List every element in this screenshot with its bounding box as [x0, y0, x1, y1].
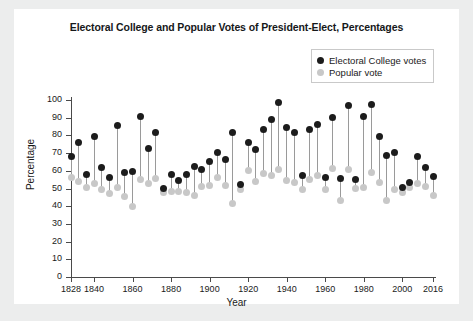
x-axis-tick-label: 1980 — [344, 284, 384, 294]
x-axis-tick — [433, 278, 434, 282]
data-point-electoral-college — [68, 153, 75, 160]
data-point-electoral-college — [383, 152, 390, 159]
data-point-electoral-college — [229, 129, 236, 136]
x-axis-tick — [325, 278, 326, 282]
data-point-electoral-college — [183, 171, 190, 178]
x-axis-tick-label: 2016 — [413, 284, 453, 294]
y-axis-tick-label: 70 — [32, 147, 62, 157]
data-point-popular-vote — [137, 176, 144, 183]
x-axis-tick — [133, 278, 134, 282]
data-point-electoral-college — [206, 158, 213, 165]
legend-label-popular-vote: Popular vote — [329, 67, 382, 78]
data-stem — [155, 132, 156, 179]
data-point-electoral-college — [337, 175, 344, 182]
data-point-electoral-college — [268, 116, 275, 123]
data-point-electoral-college — [322, 174, 329, 181]
legend-item-popular-vote: Popular vote — [317, 66, 426, 78]
data-point-electoral-college — [91, 133, 98, 140]
data-stem — [232, 132, 233, 203]
data-point-popular-vote — [414, 180, 421, 187]
x-axis-tick-label: 1920 — [228, 284, 268, 294]
data-point-electoral-college — [430, 173, 437, 180]
data-point-electoral-college — [160, 185, 167, 192]
x-axis-tick-label: 1940 — [267, 284, 307, 294]
y-axis-tick-label: 100 — [32, 94, 62, 104]
data-stem — [94, 136, 95, 183]
y-axis-tick-label: 40 — [32, 200, 62, 210]
x-axis-tick — [171, 278, 172, 282]
data-stem — [379, 137, 380, 183]
data-stem — [332, 117, 333, 169]
data-point-popular-vote — [337, 197, 344, 204]
data-stem — [348, 106, 349, 170]
data-stem — [148, 148, 149, 184]
x-axis-line — [68, 277, 436, 278]
data-point-popular-vote — [345, 166, 352, 173]
data-point-popular-vote — [175, 188, 182, 195]
data-point-electoral-college — [260, 126, 267, 133]
data-point-electoral-college — [222, 156, 229, 163]
x-axis-tick — [248, 278, 249, 282]
data-stem — [117, 125, 118, 187]
y-axis-tick-label: 90 — [32, 112, 62, 122]
data-point-electoral-college — [106, 174, 113, 181]
x-axis-tick — [210, 278, 211, 282]
data-point-popular-vote — [268, 172, 275, 179]
data-point-electoral-college — [168, 171, 175, 178]
data-point-electoral-college — [145, 145, 152, 152]
data-point-electoral-college — [114, 122, 121, 129]
y-axis-tick-label: 20 — [32, 236, 62, 246]
data-point-popular-vote — [91, 180, 98, 187]
data-point-electoral-college — [368, 101, 375, 108]
data-stem — [255, 150, 256, 182]
legend-item-electoral-college: Electoral College votes — [317, 54, 426, 66]
data-point-popular-vote — [106, 190, 113, 197]
data-point-popular-vote — [306, 176, 313, 183]
data-point-electoral-college — [391, 149, 398, 156]
data-point-popular-vote — [360, 184, 367, 191]
data-point-popular-vote — [168, 188, 175, 195]
y-axis-tick-label: 30 — [32, 218, 62, 228]
data-point-popular-vote — [422, 183, 429, 190]
data-point-popular-vote — [299, 186, 306, 193]
x-axis-tick — [402, 278, 403, 282]
data-point-electoral-college — [314, 121, 321, 128]
x-axis-tick-label: 1900 — [190, 284, 230, 294]
data-point-popular-vote — [114, 184, 121, 191]
data-point-electoral-college — [376, 133, 383, 140]
data-stem — [132, 172, 133, 207]
data-stem — [394, 152, 395, 190]
data-point-electoral-college — [214, 149, 221, 156]
data-stem — [386, 155, 387, 201]
data-stem — [363, 116, 364, 187]
x-axis-tick — [287, 278, 288, 282]
data-point-popular-vote — [376, 179, 383, 186]
data-point-popular-vote — [214, 174, 221, 181]
x-axis-tick — [94, 278, 95, 282]
data-point-popular-vote — [430, 192, 437, 199]
legend-marker-electoral-college-icon — [317, 57, 324, 64]
data-point-popular-vote — [283, 177, 290, 184]
data-stem — [309, 130, 310, 180]
legend-label-electoral-college: Electoral College votes — [329, 55, 426, 66]
data-point-popular-vote — [322, 186, 329, 193]
x-axis-tick — [71, 278, 72, 282]
data-point-popular-vote — [222, 182, 229, 189]
data-point-popular-vote — [83, 184, 90, 191]
data-point-electoral-college — [191, 163, 198, 170]
x-axis-tick — [364, 278, 365, 282]
x-axis-tick-label: 1840 — [74, 284, 114, 294]
data-point-popular-vote — [145, 180, 152, 187]
data-point-electoral-college — [329, 114, 336, 121]
data-point-electoral-college — [399, 184, 406, 191]
data-stem — [294, 133, 295, 183]
data-point-electoral-college — [245, 139, 252, 146]
data-stem — [271, 120, 272, 176]
y-axis-tick-label: 10 — [32, 253, 62, 263]
x-axis-tick-label: 1880 — [151, 284, 191, 294]
x-axis-label: Year — [14, 297, 459, 308]
y-axis-tick-label: 0 — [32, 271, 62, 281]
data-point-electoral-college — [137, 113, 144, 120]
x-axis-tick-label: 1960 — [305, 284, 345, 294]
y-axis-label: Percentage — [25, 115, 36, 215]
